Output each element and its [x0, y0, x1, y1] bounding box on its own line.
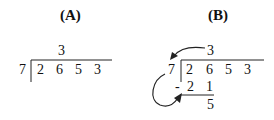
arrow-quotient-to-divisor	[174, 47, 205, 56]
panel-a-dividend-digit: 3	[94, 63, 101, 77]
panel-b-minus-sign: -	[175, 80, 180, 94]
panel-b-dividend-digit: 2	[186, 63, 193, 77]
panel-b-dividend-digit: 5	[225, 63, 232, 77]
panel-b-dividend-digit: 6	[206, 63, 213, 77]
panel-b-dividend-digit: 3	[244, 63, 251, 77]
panel-b-remainder: 5	[207, 98, 214, 112]
panel-a-title: (A)	[60, 8, 81, 22]
panel-a-quotient-digit: 3	[58, 44, 65, 58]
panel-b-product-digit: 1	[206, 80, 213, 94]
panel-a-dividend-digit: 2	[37, 63, 44, 77]
panel-a-dividend-digit: 6	[56, 63, 63, 77]
panel-b-divisor: 7	[168, 63, 175, 77]
panel-b-quotient-digit: 3	[207, 44, 214, 58]
panel-b-product-digit: 2	[187, 80, 194, 94]
panel-a-dividend-digit: 5	[75, 63, 82, 77]
division-lines	[0, 0, 274, 120]
panel-b-title: (B)	[208, 8, 228, 22]
panel-a-divisor: 7	[19, 63, 26, 77]
